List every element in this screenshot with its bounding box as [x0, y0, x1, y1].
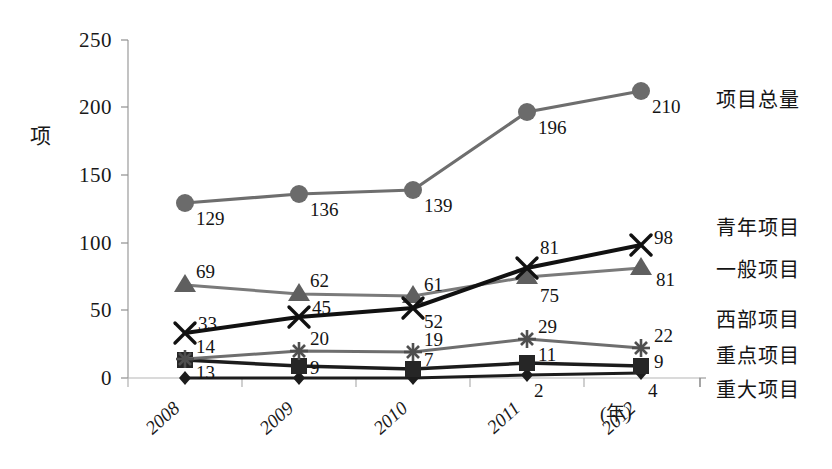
- value-label-total-2011: 196: [538, 118, 567, 137]
- legend-item-key: 重点项目: [716, 346, 800, 366]
- legend-item-major: 重大项目: [716, 380, 800, 400]
- legend-item-general: 一般项目: [716, 260, 800, 280]
- value-label-major-2011: 2: [534, 381, 544, 400]
- value-label-west-2009: 20: [310, 329, 329, 348]
- value-label-key-2012: 9: [654, 352, 664, 371]
- y-axis-title: 项: [30, 126, 51, 147]
- legend-item-total: 项目总量: [716, 90, 800, 110]
- series-general: [174, 257, 652, 303]
- value-label-youth-2011: 81: [540, 238, 559, 257]
- value-label-youth-2012: 98: [654, 228, 673, 247]
- x-axis-unit: (年): [600, 404, 632, 423]
- value-label-general-2010: 61: [424, 275, 443, 294]
- value-label-key-2009: 9: [310, 358, 320, 377]
- y-tick-150: 150: [52, 165, 112, 186]
- y-tick-50: 50: [52, 300, 112, 321]
- value-label-major-2012: 4: [648, 381, 658, 400]
- legend-connector: [700, 378, 706, 387]
- y-tick-marks: [121, 40, 128, 378]
- value-label-west-2011: 29: [538, 317, 557, 336]
- value-label-general-2011: 75: [540, 286, 559, 305]
- value-label-west-2008: 14: [196, 337, 215, 356]
- value-label-general-2009: 62: [310, 271, 329, 290]
- value-label-west-2012: 22: [654, 326, 673, 345]
- y-tick-250: 250: [52, 30, 112, 51]
- value-label-youth-2008: 33: [198, 314, 217, 333]
- value-label-total-2010: 139: [424, 196, 453, 215]
- value-label-key-2008: 13: [196, 363, 215, 382]
- line-chart: 250 200 150 100 50 0 项 2008 2009 2010 20…: [0, 0, 832, 469]
- y-tick-100: 100: [52, 233, 112, 254]
- legend-item-west: 西部项目: [716, 310, 800, 330]
- value-label-key-2010: 7: [424, 350, 434, 369]
- value-label-total-2009: 136: [310, 200, 339, 219]
- value-label-general-2008: 69: [196, 262, 215, 281]
- value-label-youth-2009: 45: [312, 298, 331, 317]
- value-label-west-2010: 19: [424, 330, 443, 349]
- value-label-general-2012: 81: [656, 270, 675, 289]
- y-tick-200: 200: [52, 97, 112, 118]
- y-tick-0: 0: [52, 368, 112, 389]
- plot-area: [0, 0, 832, 469]
- value-label-total-2008: 129: [196, 209, 225, 228]
- series-total: [176, 82, 650, 212]
- legend-item-youth: 青年项目: [716, 218, 800, 238]
- value-label-key-2011: 11: [538, 345, 556, 364]
- value-label-total-2012: 210: [652, 97, 681, 116]
